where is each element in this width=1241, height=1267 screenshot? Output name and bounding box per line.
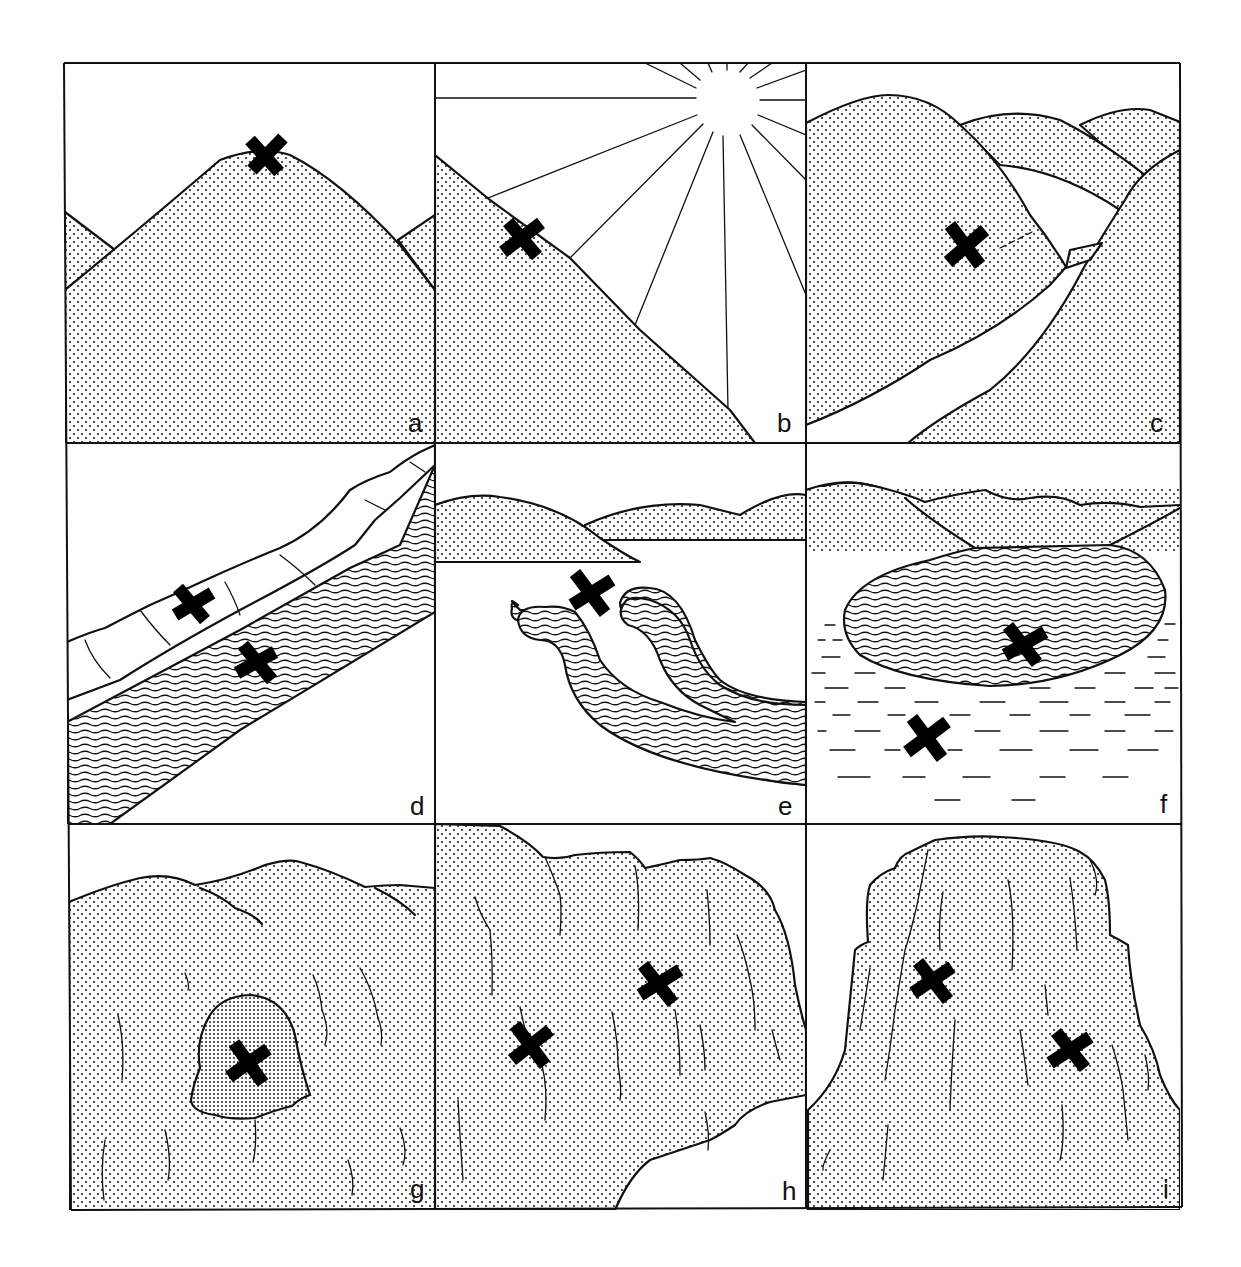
panel-f: f — [806, 482, 1180, 819]
panel-label-h: h — [782, 1176, 796, 1206]
panel-d: d — [67, 445, 435, 824]
illustration-grid: a b — [0, 0, 1241, 1267]
panel-label-f: f — [1160, 789, 1168, 819]
panel-a: a — [65, 138, 435, 443]
panel-label-e: e — [778, 791, 792, 821]
x-marker — [572, 573, 612, 613]
panel-label-a: a — [408, 408, 423, 438]
panel-g: g — [69, 861, 435, 1210]
panel-label-i: i — [1163, 1174, 1169, 1204]
sun-icon — [696, 73, 756, 133]
panel-b: b — [435, 63, 806, 443]
panel-h: h — [435, 824, 806, 1210]
x-marker — [175, 588, 212, 620]
panel-label-b: b — [777, 408, 791, 438]
panel-label-d: d — [410, 791, 424, 821]
panel-label-c: c — [1150, 408, 1163, 438]
panel-i: i — [808, 836, 1180, 1210]
x-marker — [907, 718, 947, 758]
panel-label-g: g — [410, 1174, 424, 1204]
panel-e: e — [435, 494, 806, 821]
panel-c: c — [806, 95, 1180, 443]
